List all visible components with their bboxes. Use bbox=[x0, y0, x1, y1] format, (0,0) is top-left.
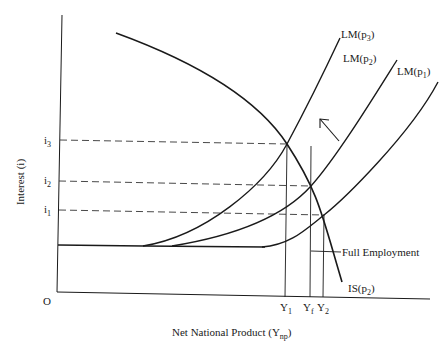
y-axis bbox=[57, 15, 62, 292]
i2-label: i2 bbox=[44, 174, 51, 189]
full-employment-label: Full Employment bbox=[342, 246, 419, 258]
y2-vertical-line bbox=[323, 215, 324, 297]
y1-vertical-line bbox=[285, 144, 287, 297]
origin-label: O bbox=[43, 295, 51, 307]
yf-label: Yf bbox=[303, 301, 314, 316]
lm-p3-label: LM(p3) bbox=[341, 28, 375, 43]
lm-floor-segment bbox=[58, 245, 265, 247]
is-lm-diagram: Interest (i) i3 i2 i1 O Y1 Yf Y2 Net Nat… bbox=[0, 0, 447, 345]
full-employment-pointer bbox=[311, 251, 341, 252]
i2-dashed-line bbox=[59, 181, 311, 186]
i3-label: i3 bbox=[44, 134, 51, 149]
i1-label: i1 bbox=[44, 203, 51, 218]
i3-dashed-line bbox=[60, 140, 287, 144]
lm-p1-curve bbox=[262, 82, 438, 247]
y1-label: Y1 bbox=[280, 301, 292, 316]
yf-vertical-line bbox=[310, 146, 311, 297]
x-axis-label: Net National Product (Ynp) bbox=[172, 326, 292, 341]
is-p2-label: IS(p2) bbox=[348, 282, 375, 297]
lm-p2-label: LM(p2) bbox=[343, 52, 377, 67]
i1-dashed-line bbox=[59, 210, 324, 215]
lm-p2-curve bbox=[172, 60, 397, 246]
y-axis-label: Interest (i) bbox=[14, 159, 27, 205]
y2-label: Y2 bbox=[317, 301, 329, 316]
lm-p1-label: LM(p1) bbox=[397, 65, 431, 80]
shift-arrow-icon bbox=[320, 119, 339, 141]
